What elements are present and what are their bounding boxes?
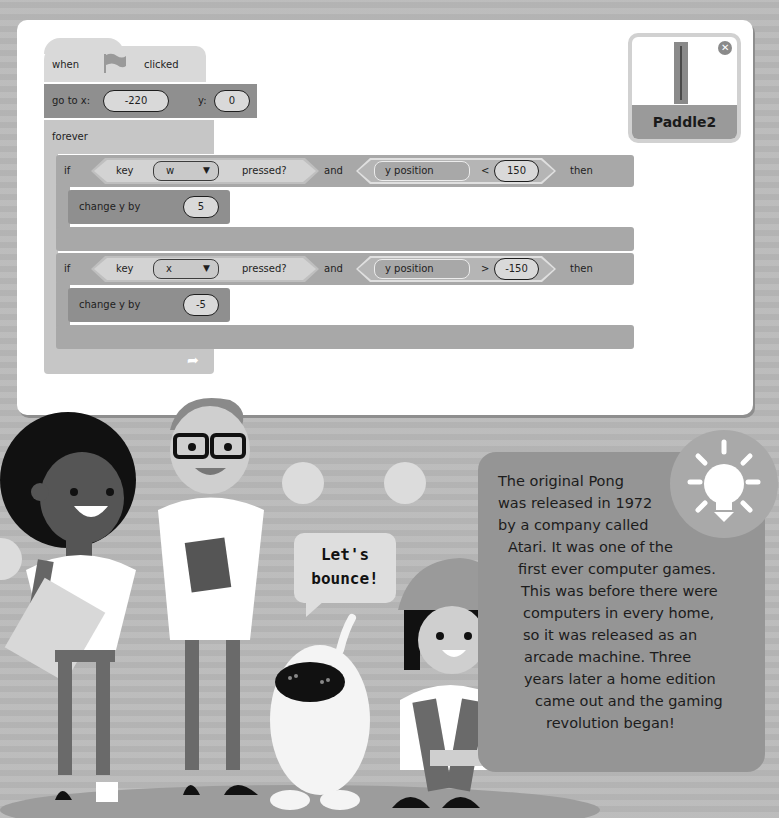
if-label: if xyxy=(64,165,70,176)
sprite-card[interactable]: ✕ Paddle2 xyxy=(628,33,741,143)
green-flag-icon xyxy=(102,52,128,74)
and-label: and xyxy=(324,165,343,176)
paddle-thumbnail xyxy=(674,42,688,104)
speech-bubble: Let's bounce! xyxy=(294,533,396,603)
change-y-block-2[interactable]: change y by -5 xyxy=(68,288,230,322)
change-y-label: change y by xyxy=(79,299,140,310)
lightbulb-badge xyxy=(670,430,778,538)
if-block-1[interactable]: if key w ▼ pressed? and y position < 150… xyxy=(56,155,634,187)
speech-line-1: Let's xyxy=(294,543,396,567)
forever-block[interactable]: forever xyxy=(44,120,214,154)
decor-circle xyxy=(384,462,426,504)
decor-circle xyxy=(282,462,324,504)
fact-line: revolution began! xyxy=(546,712,675,734)
robot-illustration xyxy=(260,610,380,810)
fact-line: years later a home edition xyxy=(524,668,716,690)
forever-end: ➦ xyxy=(44,348,214,374)
speech-line-2: bounce! xyxy=(294,567,396,591)
key-label: key xyxy=(116,263,134,274)
compare-value-input[interactable]: -150 xyxy=(494,258,539,280)
change-y-label: change y by xyxy=(79,201,140,212)
close-icon[interactable]: ✕ xyxy=(718,41,732,55)
when-flag-clicked-block[interactable]: when clicked xyxy=(44,46,206,82)
fact-line: computers in every home, xyxy=(523,602,714,624)
fact-line: so it was released as an xyxy=(523,624,697,646)
fact-line: This was before there were xyxy=(521,580,718,602)
fact-line: first ever computer games. xyxy=(518,558,716,580)
chevron-down-icon: ▼ xyxy=(203,162,210,179)
fact-line: came out and the gaming xyxy=(535,690,723,712)
clicked-label: clicked xyxy=(144,59,179,70)
if-block-2[interactable]: if key x ▼ pressed? and y position > -15… xyxy=(56,253,634,285)
go-to-x-label: go to x: xyxy=(52,95,90,106)
key-dropdown[interactable]: w ▼ xyxy=(153,161,219,181)
x-value-input[interactable]: -220 xyxy=(103,90,169,112)
y-position-reporter[interactable]: y position xyxy=(374,259,470,279)
key-dropdown[interactable]: x ▼ xyxy=(153,259,219,279)
y-value-input[interactable]: 0 xyxy=(214,90,250,112)
if-label: if xyxy=(64,263,70,274)
operator-label: < xyxy=(481,165,489,176)
pressed-label: pressed? xyxy=(242,165,287,176)
change-value-input[interactable]: -5 xyxy=(183,294,219,316)
operator-label: > xyxy=(481,263,489,274)
key-value: w xyxy=(166,165,174,176)
character-boy-illustration xyxy=(140,390,280,810)
forever-label: forever xyxy=(52,131,88,142)
fact-line: The original Pong xyxy=(498,470,624,492)
change-y-block-1[interactable]: change y by 5 xyxy=(68,190,230,224)
if-end-1 xyxy=(56,227,634,251)
then-label: then xyxy=(570,263,593,274)
if-end-2 xyxy=(56,325,634,349)
change-value-input[interactable]: 5 xyxy=(183,196,219,218)
key-label: key xyxy=(116,165,134,176)
fact-line: Atari. It was one of the xyxy=(508,536,673,558)
lightbulb-icon xyxy=(670,430,778,538)
compare-value-input[interactable]: 150 xyxy=(494,160,539,182)
and-label: and xyxy=(324,263,343,274)
fact-line: by a company called xyxy=(498,514,648,536)
chevron-down-icon: ▼ xyxy=(203,260,210,277)
y-label: y: xyxy=(198,95,207,106)
key-value: x xyxy=(166,263,172,274)
fact-line: arcade machine. Three xyxy=(524,646,691,668)
go-to-xy-block[interactable]: go to x: -220 y: 0 xyxy=(44,84,257,118)
loop-arrow-icon: ➦ xyxy=(187,352,199,368)
sprite-name: Paddle2 xyxy=(632,105,737,139)
pressed-label: pressed? xyxy=(242,263,287,274)
fact-line: was released in 1972 xyxy=(498,492,652,514)
y-position-reporter[interactable]: y position xyxy=(374,161,470,181)
when-label: when xyxy=(52,59,79,70)
then-label: then xyxy=(570,165,593,176)
